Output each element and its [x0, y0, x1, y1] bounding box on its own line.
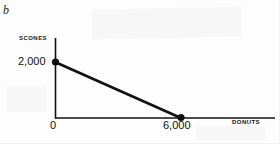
figure-panel: b SCONES DONUTS 2,000 0 6,000 [0, 0, 280, 144]
x-axis-tick-label-origin: 0 [50, 119, 56, 131]
y-axis-tick-label-2000: 2,000 [18, 55, 46, 67]
series-line-ppf [55, 62, 181, 118]
x-axis-title: DONUTS [232, 119, 260, 125]
y-axis-title: SCONES [19, 35, 47, 41]
data-point-marker-scones-2000 [52, 58, 59, 65]
x-axis-tick-label-6000: 6,000 [163, 119, 191, 131]
